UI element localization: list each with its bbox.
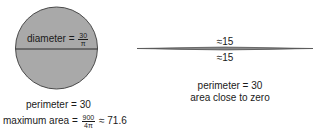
lens-bottom-length-label: ≈15	[210, 52, 240, 63]
fraction-denominator: π	[78, 40, 88, 47]
max-area-value: ≈ 71.6	[99, 115, 127, 126]
lens-perimeter-label: perimeter = 30	[185, 80, 275, 91]
circle-max-area-label: maximum area = 900 4π ≈ 71.6	[3, 114, 127, 129]
max-area-text: maximum area =	[3, 115, 78, 126]
diameter-fraction: 30 π	[78, 32, 88, 47]
diagram-canvas	[0, 0, 326, 132]
fraction-numerator: 30	[78, 32, 88, 40]
lens-top-length-label: ≈15	[210, 36, 240, 47]
circle-perimeter-label: perimeter = 30	[26, 99, 88, 110]
diameter-label: diameter = 30 π	[27, 32, 89, 47]
fraction-denominator: 4π	[82, 122, 96, 129]
max-area-fraction: 900 4π	[82, 114, 96, 129]
flat-lens-shape	[137, 47, 313, 50]
circle-shape	[16, 7, 98, 89]
fraction-numerator: 900	[82, 114, 96, 122]
lens-area-label: area close to zero	[180, 92, 280, 103]
diameter-text: diameter =	[27, 33, 75, 44]
